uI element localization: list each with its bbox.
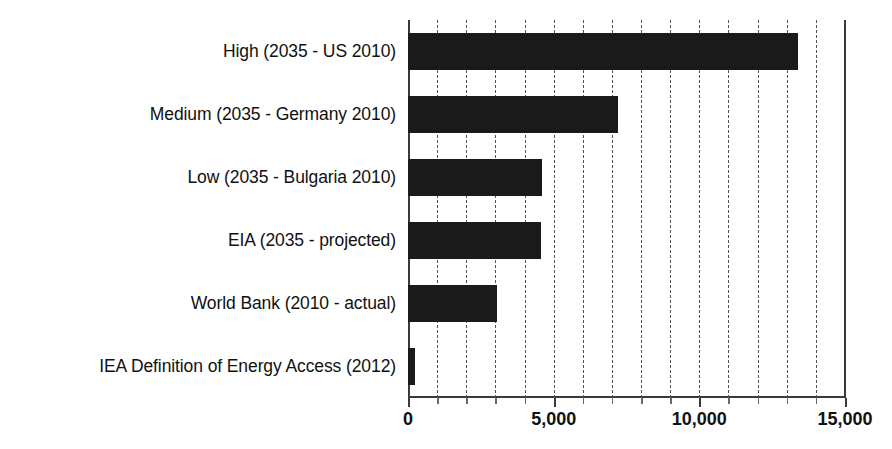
y-axis-tick-label-1: Medium (2035 - Germany 2010) — [150, 106, 396, 124]
bar-3 — [408, 222, 541, 259]
x-axis-tick — [845, 398, 847, 407]
y-axis-tick-label-3: EIA (2035 - projected) — [228, 232, 396, 250]
bar-row — [408, 209, 845, 272]
y-axis-tick-label-4: World Bank (2010 - actual) — [191, 295, 396, 313]
x-axis-minor-tick — [612, 398, 614, 404]
x-axis-minor-tick — [466, 398, 468, 404]
plot-area — [408, 20, 845, 398]
x-axis-minor-tick — [495, 398, 497, 404]
x-axis-minor-tick — [670, 398, 672, 404]
bar-row — [408, 272, 845, 335]
bar-row — [408, 146, 845, 209]
x-axis-tick-label-3: 15,000 — [817, 410, 872, 428]
y-axis-tick-label-5: IEA Definition of Energy Access (2012) — [99, 358, 396, 376]
x-axis-tick — [408, 398, 410, 407]
bar-4 — [408, 285, 497, 322]
y-axis-label-row: World Bank (2010 - actual) — [0, 272, 402, 335]
x-axis-minor-tick — [816, 398, 818, 404]
x-axis-tick — [554, 398, 556, 407]
x-axis-tick-label-2: 10,000 — [672, 410, 727, 428]
x-axis-minor-tick — [728, 398, 730, 404]
bar-chart: High (2035 - US 2010) Medium (2035 - Ger… — [0, 0, 892, 449]
x-axis-minor-tick — [787, 398, 789, 404]
bar-1 — [408, 96, 618, 133]
y-axis-tick-label-0: High (2035 - US 2010) — [223, 43, 396, 61]
y-axis-label-row: Low (2035 - Bulgaria 2010) — [0, 146, 402, 209]
bar-row — [408, 83, 845, 146]
x-axis-tick — [699, 398, 701, 407]
y-axis-category-labels: High (2035 - US 2010) Medium (2035 - Ger… — [0, 20, 402, 398]
x-axis-minor-tick — [437, 398, 439, 404]
x-axis-tick-label-1: 5,000 — [531, 410, 576, 428]
x-axis-minor-tick — [525, 398, 527, 404]
y-axis-label-row: EIA (2035 - projected) — [0, 209, 402, 272]
x-axis-minor-tick — [758, 398, 760, 404]
bar-row — [408, 335, 845, 398]
bar-2 — [408, 159, 542, 196]
bars-layer — [408, 20, 845, 398]
x-axis-minor-tick — [583, 398, 585, 404]
y-axis-label-row: IEA Definition of Energy Access (2012) — [0, 335, 402, 398]
y-axis-label-row: High (2035 - US 2010) — [0, 20, 402, 83]
bar-0 — [408, 33, 798, 70]
bar-5 — [408, 348, 415, 385]
y-axis-tick-label-2: Low (2035 - Bulgaria 2010) — [187, 169, 396, 187]
x-axis-tick-label-0: 0 — [403, 410, 413, 428]
y-axis-label-row: Medium (2035 - Germany 2010) — [0, 83, 402, 146]
bar-row — [408, 20, 845, 83]
x-axis-minor-tick — [641, 398, 643, 404]
